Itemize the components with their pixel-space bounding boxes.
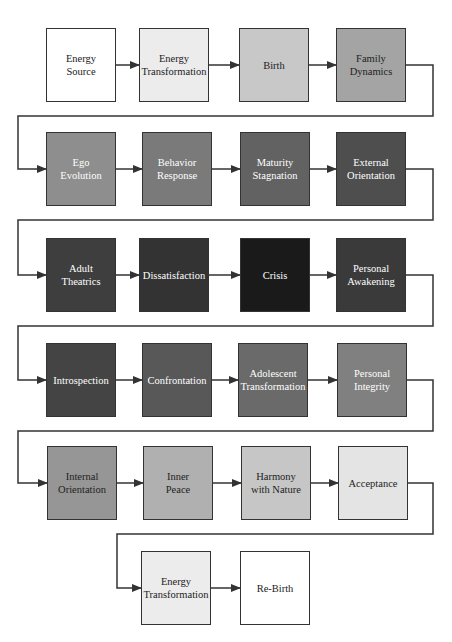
node-label: Behavior [156,156,199,169]
node-label: Integrity [352,380,392,393]
node-label: Transformation [142,588,211,601]
node-personal-awakening: PersonalAwakening [336,238,406,312]
life-cycle-flow-diagram: EnergySourceEnergyTransformationBirthFam… [0,0,452,642]
node-label: Acceptance [347,477,400,490]
node-introspection: Introspection [46,343,116,417]
node-dissatisfaction: Dissatisfaction [139,238,209,312]
node-label: Energy [64,52,98,65]
node-label: Personal [351,262,391,275]
node-label: Personal [352,367,392,380]
node-label: Adult [67,262,95,275]
node-label: Evolution [58,169,103,182]
node-label: Orientation [345,169,397,182]
node-re-birth: Re-Birth [240,551,310,625]
node-label: Dynamics [348,65,395,78]
node-label: Response [155,169,199,182]
node-behavior-response: BehaviorResponse [142,132,212,206]
node-external-orientation: ExternalOrientation [336,132,406,206]
node-label: Re-Birth [255,582,296,595]
node-internal-orientation: InternalOrientation [47,446,117,520]
node-label: Peace [164,483,192,496]
node-confrontation: Confrontation [142,343,212,417]
node-label: Transformation [239,380,308,393]
node-label: Inner [165,470,191,483]
node-label: Harmony [254,470,298,483]
node-label: Adolescent [247,367,298,380]
node-acceptance: Acceptance [338,446,408,520]
node-label: Dissatisfaction [141,269,207,282]
node-label: Birth [261,59,287,72]
node-adolescent-transformation: AdolescentTransformation [238,343,308,417]
node-label: Introspection [51,374,110,387]
node-label: Internal [64,470,101,483]
node-label: Awakening [345,275,396,288]
node-label: Orientation [56,483,108,496]
node-inner-peace: InnerPeace [143,446,213,520]
node-label: Stagnation [251,169,300,182]
node-ego-evolution: EgoEvolution [46,132,116,206]
node-label: Energy [159,575,193,588]
node-label: Family [354,52,388,65]
node-harmony-with-nature: Harmonywith Nature [241,446,311,520]
node-label: Source [64,65,97,78]
node-energy-transformation: EnergyTransformation [141,551,211,625]
node-label: Energy [157,52,191,65]
node-label: with Nature [249,483,303,496]
node-personal-integrity: PersonalIntegrity [337,343,407,417]
node-label: External [351,156,391,169]
node-adult-theatrics: AdultTheatrics [46,238,116,312]
node-maturity-stagnation: MaturityStagnation [240,132,310,206]
node-crisis: Crisis [240,238,310,312]
node-label: Maturity [255,156,296,169]
node-birth: Birth [239,28,309,102]
node-label: Crisis [261,269,290,282]
node-family-dynamics: FamilyDynamics [336,28,406,102]
node-label: Confrontation [146,374,209,387]
node-label: Ego [71,156,92,169]
node-energy-source: EnergySource [46,28,116,102]
node-label: Transformation [140,65,209,78]
node-energy-transformation: EnergyTransformation [139,28,209,102]
node-label: Theatrics [59,275,102,288]
